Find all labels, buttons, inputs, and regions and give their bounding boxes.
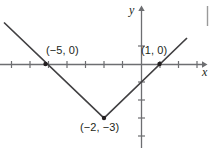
graph-figure: (−5, 0) (1, 0) (−2, −3) y x <box>0 0 211 148</box>
point-marker-vertex <box>102 116 106 120</box>
absolute-value-curve <box>4 23 187 119</box>
point-marker-left-intercept <box>43 62 47 66</box>
point-marker-right-intercept <box>157 62 161 66</box>
y-axis-arrow-icon <box>138 6 144 12</box>
label-x-intercept-right: (1, 0) <box>141 44 167 56</box>
label-vertex: (−2, −3) <box>80 121 119 133</box>
y-axis-label: y <box>129 4 134 16</box>
x-axis-label: x <box>202 66 207 78</box>
label-x-intercept-left: (−5, 0) <box>46 44 79 56</box>
